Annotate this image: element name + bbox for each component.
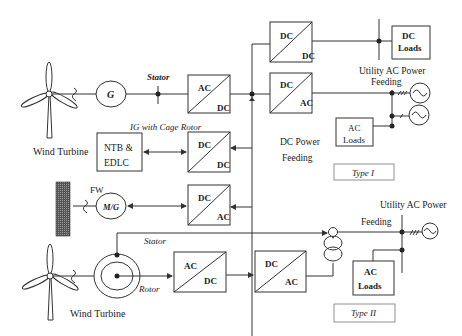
svg-text:DC: DC <box>302 51 315 61</box>
dc-power-feeding-label: DC Power <box>280 137 321 147</box>
ac-loads-box-1: AC Loads <box>336 118 373 146</box>
svg-text:DC: DC <box>280 80 293 90</box>
svg-text:AC: AC <box>348 123 361 133</box>
svg-text:Loads: Loads <box>358 281 382 291</box>
utility-label-2: Utility AC Power <box>380 200 447 210</box>
wind-turbine-1-icon <box>20 62 78 138</box>
svg-text:EDLC: EDLC <box>104 158 129 168</box>
svg-text:AC: AC <box>285 277 298 287</box>
converter-dc-dc-storage: DC DC <box>188 132 230 172</box>
svg-text:DC: DC <box>217 103 230 113</box>
converter-dc-ac-2: DC AC <box>255 251 306 292</box>
svg-text:DC: DC <box>280 31 293 41</box>
utility-label-2b: Feeding <box>361 217 392 227</box>
svg-text:Loads: Loads <box>343 135 365 145</box>
dfig-icon <box>94 253 140 299</box>
transformer-icon <box>324 236 342 261</box>
svg-text:AC: AC <box>364 267 377 277</box>
converter-dc-ac-fw: DC AC <box>188 185 230 225</box>
utility-label-1b: Feeding <box>371 77 402 87</box>
svg-text:Loads: Loads <box>398 43 422 53</box>
svg-text:DC: DC <box>204 276 217 286</box>
generator-label: G <box>107 89 115 100</box>
type-2-label: Type II <box>351 308 377 318</box>
converter-ac-dc-2: AC DC <box>174 252 226 292</box>
stator-2-label: Stator <box>144 236 167 246</box>
motor-generator-label: M/G <box>102 202 120 212</box>
svg-text:AC: AC <box>184 261 197 271</box>
svg-text:DC: DC <box>198 140 211 150</box>
power-system-diagram: Wind Turbine G Stator AC DC DC DC DC Loa… <box>0 0 462 336</box>
svg-text:DC: DC <box>217 160 230 170</box>
converter-ac-dc-1: AC DC <box>188 75 230 113</box>
ac-loads-box-2: AC Loads <box>353 261 394 295</box>
rotor-label: Rotor <box>138 284 160 294</box>
wind-turbine-2-label: Wind Turbine <box>70 308 126 319</box>
svg-text:DC: DC <box>402 31 415 41</box>
svg-text:AC: AC <box>300 98 313 108</box>
svg-text:NTB &: NTB & <box>104 143 133 153</box>
utility-label-1: Utility AC Power <box>359 66 426 76</box>
svg-text:DC: DC <box>265 259 278 269</box>
dc-loads-box: DC Loads <box>392 26 430 59</box>
svg-text:AC: AC <box>217 212 230 222</box>
svg-text:DC: DC <box>198 193 211 203</box>
flywheel-icon <box>56 182 70 236</box>
dc-power-feeding-label-b: Feeding <box>282 153 313 163</box>
converter-dc-dc-top: DC DC <box>270 22 315 62</box>
wind-turbine-1-label: Wind Turbine <box>33 146 89 157</box>
type-1-label: Type I <box>352 168 375 178</box>
stator-label: Stator <box>147 72 170 82</box>
svg-text:AC: AC <box>198 83 211 93</box>
summing-junction-icon <box>329 228 338 237</box>
fw-label: FW <box>90 185 104 195</box>
storage-box: NTB & EDLC <box>97 133 142 171</box>
ig-note-label: IG with Cage Rotor <box>129 122 202 132</box>
converter-dc-ac-grid: DC AC <box>270 73 313 113</box>
